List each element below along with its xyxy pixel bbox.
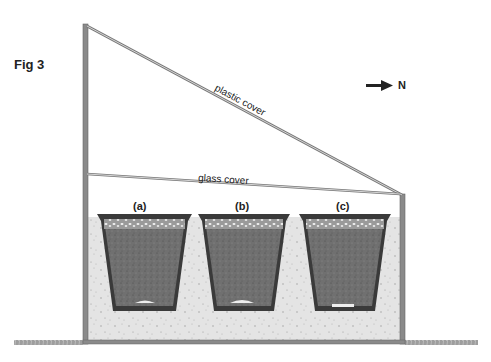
pot-c-label: (c) <box>336 200 350 212</box>
figure-title: Fig 3 <box>14 57 44 72</box>
cold-frame-diagram: plastic cover glass cover (a) (b) (c) <box>0 0 491 362</box>
pot-a-label: (a) <box>133 200 147 212</box>
right-post <box>400 194 405 344</box>
north-label: N <box>398 79 406 91</box>
pot-b-label: (b) <box>235 200 249 212</box>
north-arrow-icon <box>366 80 393 91</box>
ground-right <box>405 340 478 345</box>
ground-left <box>14 340 83 345</box>
glass-cover-label: glass cover <box>198 172 250 186</box>
pot-a <box>97 214 192 311</box>
plastic-cover-label: plastic cover <box>213 82 268 118</box>
left-post <box>83 24 88 344</box>
bottom-rail <box>83 340 405 344</box>
